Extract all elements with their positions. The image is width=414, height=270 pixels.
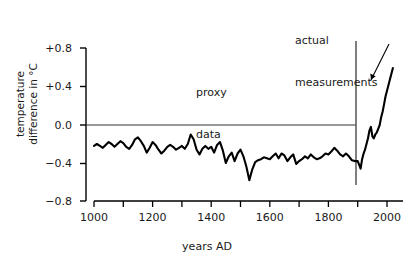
x-tick-label-1000: 1000 (69, 211, 119, 224)
y-tick-label-4: −0.8 (28, 195, 72, 208)
proxy-data-annotation-line2: data (196, 128, 227, 142)
x-tick-label-1200: 1200 (128, 211, 178, 224)
actual-measurements-annotation-line2: measurements (295, 76, 377, 90)
actual-measurements-annotation-line1: actual (295, 34, 377, 48)
x-tick-label-1400: 1400 (186, 211, 236, 224)
y-axis-label-line1: temperature (14, 44, 27, 164)
proxy-data-annotation: proxy data (196, 58, 227, 170)
x-tick-label-1600: 1600 (245, 211, 295, 224)
x-tick-label-1800: 1800 (303, 211, 353, 224)
y-axis-label: temperature difference in °C (14, 44, 46, 164)
x-tick-marks (94, 201, 387, 207)
temperature-anomaly-chart: +0.8 +0.4 0.0 −0.4 −0.8 1000 1200 1400 1… (0, 0, 414, 270)
x-axis-label: years AD (0, 240, 414, 253)
proxy-data-annotation-line1: proxy (196, 86, 227, 100)
actual-measurements-annotation: actual measurements (295, 6, 377, 118)
x-tick-label-2000: 2000 (362, 211, 412, 224)
y-axis-label-line2: difference in °C (27, 44, 40, 164)
